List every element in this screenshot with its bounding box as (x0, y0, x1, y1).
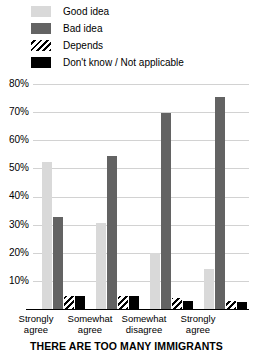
legend-item-good-idea: Good idea (31, 5, 109, 18)
y-axis-tick-40: 40% (0, 191, 29, 201)
bar-bad-idea (215, 97, 225, 309)
y-axis-tick-50: 50% (0, 163, 29, 173)
x-axis-label-strongly-disagree: Strongly agree (168, 313, 228, 335)
bar-depends (118, 296, 128, 309)
legend-swatch-good-idea (31, 6, 51, 17)
x-axis-label-line2: agree (6, 324, 66, 335)
bar-good-idea (150, 253, 160, 309)
y-axis-tick-20: 20% (0, 248, 29, 258)
x-axis-label-strongly-agree: Strongly agree (6, 313, 66, 335)
legend-swatch-dont-know (31, 57, 51, 68)
x-axis-label-line1: Strongly (168, 313, 228, 324)
x-axis-label-line1: Strongly (6, 313, 66, 324)
bar-chart: Good idea Bad idea Depends Don't know / … (0, 0, 253, 355)
x-axis-title: THERE ARE TOO MANY IMMIGRANTS (0, 340, 253, 352)
bar-good-idea (96, 223, 106, 309)
bar-bad-idea (53, 217, 63, 309)
x-axis-line (26, 309, 249, 310)
x-axis-label-line2: disagree (114, 324, 174, 335)
plot-area (33, 84, 249, 309)
bar-bad-idea (161, 113, 171, 309)
bar-depends (64, 296, 74, 309)
legend-label-depends: Depends (63, 40, 103, 51)
bar-group-somewhat-agree (87, 84, 141, 309)
y-axis-tick-60: 60% (0, 135, 29, 145)
legend-swatch-bad-idea (31, 23, 51, 34)
legend-item-depends: Depends (31, 39, 103, 52)
x-axis-label-line1: Somewhat (60, 313, 120, 324)
legend-label-dont-know: Don't know / Not applicable (63, 57, 184, 68)
bar-dont-know (129, 296, 139, 309)
bar-group-somewhat-disagree (141, 84, 195, 309)
bar-group-strongly-disagree (195, 84, 249, 309)
x-axis-label-somewhat-disagree: Somewhat disagree (114, 313, 174, 335)
legend-label-bad-idea: Bad idea (63, 23, 102, 34)
x-axis-label-somewhat-agree: Somewhat agree (60, 313, 120, 335)
y-axis-tick-10: 10% (0, 276, 29, 286)
bar-good-idea (42, 162, 52, 309)
bar-depends (226, 301, 236, 309)
bar-depends (172, 298, 182, 309)
x-axis-label-line2: agree (168, 324, 228, 335)
legend-label-good-idea: Good idea (63, 6, 109, 17)
chart-legend: Good idea Bad idea Depends Don't know / … (0, 0, 253, 76)
legend-item-bad-idea: Bad idea (31, 22, 102, 35)
y-axis-tick-70: 70% (0, 107, 29, 117)
bar-dont-know (237, 302, 247, 309)
y-axis-tick-80: 80% (0, 79, 29, 89)
bar-bad-idea (107, 156, 117, 309)
bar-dont-know (75, 296, 85, 309)
bar-group-strongly-agree (33, 84, 87, 309)
x-axis-label-line1: Somewhat (114, 313, 174, 324)
y-axis-tick-30: 30% (0, 220, 29, 230)
bar-dont-know (183, 301, 193, 309)
legend-swatch-depends (31, 40, 51, 51)
bar-good-idea (204, 269, 214, 309)
legend-item-dont-know: Don't know / Not applicable (31, 56, 184, 69)
x-axis-label-line2: agree (60, 324, 120, 335)
